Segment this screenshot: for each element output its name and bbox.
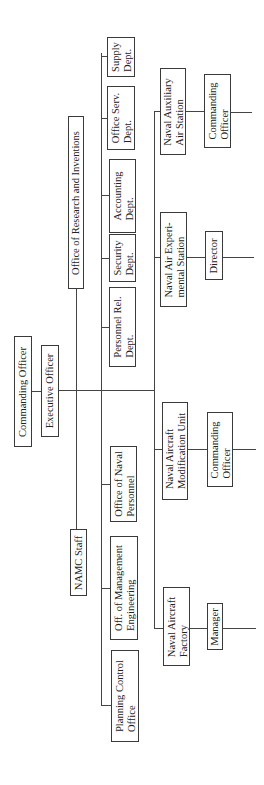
node-naval-aircraft-modification-unit: Naval AircraftModification Unit xyxy=(162,402,188,500)
node-naes-director: Director xyxy=(205,231,223,280)
node-label-line: Dept. xyxy=(123,172,135,221)
node-label-line: Accounting xyxy=(111,172,123,221)
node-office-of-naval-personnel: Office of NavalPersonnel xyxy=(110,446,137,522)
node-naval-aircraft-factory: Naval AircraftFactory xyxy=(163,587,190,666)
node-label-line: Office Serv. xyxy=(110,93,122,143)
connector-namu-head xyxy=(187,449,207,450)
connector-unit-trunk xyxy=(154,111,155,628)
node-label: Off. of ManagementEngineering xyxy=(113,545,136,631)
node-label-line: Naval Aircraft xyxy=(164,413,176,489)
connector-prd xyxy=(101,327,109,328)
node-commanding-officer: Commanding Officer xyxy=(14,336,32,447)
connector-pco xyxy=(101,705,111,706)
connector-naf-head xyxy=(189,628,207,629)
connector-naas-head xyxy=(185,111,204,112)
node-label-line: Factory xyxy=(177,596,189,656)
node-security-dept: SecurityDept. xyxy=(109,234,136,282)
node-label: Naval AircraftFactory xyxy=(165,596,188,656)
node-off-of-management-engineering: Off. of ManagementEngineering xyxy=(110,536,138,640)
node-label: Planning ControlOffice xyxy=(114,660,137,732)
connector-dept-trunk xyxy=(101,53,102,705)
node-supply-dept: SupplyDept. xyxy=(107,37,135,77)
node-label-line: Dept. xyxy=(121,42,133,72)
node-label-line: Dept. xyxy=(123,296,135,357)
node-accounting-dept: AccountingDept. xyxy=(109,159,136,233)
node-label: Naval Air Experi-mental Station xyxy=(162,222,185,297)
node-executive-officer: Executive Officer xyxy=(41,345,59,437)
node-office-of-research: Office of Research and Inventions xyxy=(68,116,84,289)
node-planning-control-office: Planning ControlOffice xyxy=(111,650,139,742)
node-label-line: Off. of Management xyxy=(113,545,125,631)
node-label: Naval AuxiliaryAir Station xyxy=(162,78,185,145)
connector-naf-out xyxy=(222,628,256,629)
node-label-line: Office of Research and Inventions xyxy=(70,131,82,275)
connector-sec xyxy=(101,258,109,259)
node-label-line: Security xyxy=(111,241,123,276)
connector-staff-spine xyxy=(76,289,77,529)
node-label: Office of NavalPersonnel xyxy=(112,451,135,517)
node-label-line: Office xyxy=(125,660,137,732)
connector-naes-out xyxy=(222,257,254,258)
node-label-line: Commanding Officer xyxy=(17,347,29,437)
node-label: Office of Research and Inventions xyxy=(70,131,82,275)
node-label-line: Director xyxy=(208,238,220,273)
node-label: Office Serv.Dept. xyxy=(110,93,133,143)
node-label: NAMC Staff xyxy=(73,535,85,589)
node-label-line: Modification Unit xyxy=(175,413,187,489)
connector-xo-trunk xyxy=(58,390,154,391)
node-label-line: Commanding xyxy=(209,421,221,478)
connector-namu-out xyxy=(232,449,256,450)
node-namu-commanding-officer: CommandingOfficer xyxy=(207,412,233,487)
node-label-line: NAMC Staff xyxy=(73,535,85,589)
node-label: Executive Officer xyxy=(44,354,56,429)
node-label-line: Personnel xyxy=(124,451,136,517)
connector-onp xyxy=(101,484,110,485)
node-label: Commanding Officer xyxy=(17,347,29,437)
node-label: SupplyDept. xyxy=(110,42,133,72)
node-label: AccountingDept. xyxy=(111,172,134,221)
node-label-line: Manager xyxy=(209,608,221,645)
connector-naf xyxy=(154,628,163,629)
node-label-line: Commanding xyxy=(206,82,218,139)
connector-naas-out xyxy=(230,112,252,113)
node-label-line: mental Station xyxy=(174,222,186,297)
node-label-line: Office of Naval xyxy=(112,451,124,517)
node-naf-manager: Manager xyxy=(207,603,223,650)
connector-naes-head xyxy=(186,257,205,258)
node-label-line: Officer xyxy=(218,82,230,139)
connector-namu xyxy=(154,449,162,450)
node-label-line: Personnel Rel. xyxy=(111,296,123,357)
node-naval-auxiliary-air-station: Naval AuxiliaryAir Station xyxy=(160,68,186,155)
connector-ome xyxy=(101,588,110,589)
node-naval-air-experimental-station: Naval Air Experi-mental Station xyxy=(160,212,187,307)
connector-co-xo xyxy=(31,391,41,392)
node-label: CommandingOfficer xyxy=(209,421,232,478)
node-label-line: Naval Auxiliary xyxy=(162,78,174,145)
node-label-line: Planning Control xyxy=(114,660,126,732)
node-label: Director xyxy=(208,238,220,273)
node-label: Personnel Rel.Dept. xyxy=(111,296,134,357)
node-label-line: Dept. xyxy=(121,93,133,143)
node-label-line: Naval Aircraft xyxy=(165,596,177,656)
node-office-serv-dept: Office Serv.Dept. xyxy=(107,86,135,150)
node-label: Naval AircraftModification Unit xyxy=(164,413,187,489)
connector-acc xyxy=(101,195,109,196)
node-label: SecurityDept. xyxy=(111,241,134,276)
node-namc-staff: NAMC Staff xyxy=(70,529,87,596)
node-naas-commanding-officer: CommandingOfficer xyxy=(204,74,231,148)
node-label-line: Supply xyxy=(110,42,122,72)
node-label: CommandingOfficer xyxy=(206,82,229,139)
node-label-line: Officer xyxy=(220,421,232,478)
node-personnel-rel-dept: Personnel Rel.Dept. xyxy=(109,287,136,367)
node-label-line: Air Station xyxy=(173,78,185,145)
node-label-line: Dept. xyxy=(123,241,135,276)
node-label: Manager xyxy=(209,608,221,645)
node-label-line: Naval Air Experi- xyxy=(162,222,174,297)
node-label-line: Executive Officer xyxy=(44,354,56,429)
node-label-line: Engineering xyxy=(124,545,136,631)
